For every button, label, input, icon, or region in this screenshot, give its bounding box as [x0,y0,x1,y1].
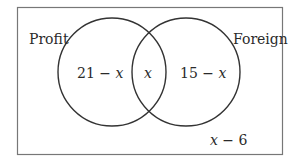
profit-label: Profit [29,31,69,47]
outside-region: x − 6 [210,132,248,148]
intersection-region: x [144,65,152,81]
venn-diagram: Profit Foreign 21 − x x 15 − x x − 6 [0,0,294,160]
foreign-only-region: 15 − x [180,65,226,81]
profit-only-region: 21 − x [77,65,123,81]
foreign-label: Foreign [233,31,288,47]
